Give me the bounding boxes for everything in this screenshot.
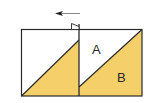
folding-diagram: A B — [0, 0, 149, 103]
right-square — [79, 30, 142, 97]
label-a: A — [92, 42, 101, 57]
label-b: B — [117, 70, 126, 85]
left-square — [22, 30, 80, 97]
fold-flap — [72, 24, 80, 30]
fold-arrow-icon — [55, 11, 80, 16]
